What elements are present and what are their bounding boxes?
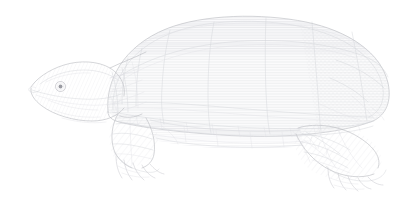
eye-pupil — [59, 85, 63, 89]
turtle-illustration: Turtle — [0, 0, 417, 202]
illustration-canvas: Turtle — [0, 0, 417, 202]
